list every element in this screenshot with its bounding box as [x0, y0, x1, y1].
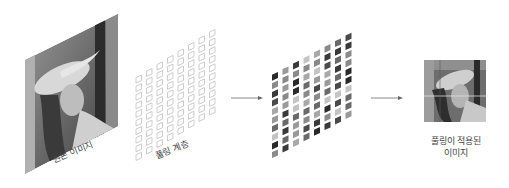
pooled-tile [272, 141, 278, 150]
pooling-cell [157, 88, 163, 96]
pooled-tile [272, 98, 278, 107]
pooling-cell [189, 120, 195, 128]
pooled-tile [293, 121, 299, 130]
pooled-tile [304, 98, 310, 107]
pooling-cell [210, 30, 216, 38]
pooled-tile [335, 47, 341, 56]
pooled-tile [283, 118, 289, 127]
pooled-tile [335, 116, 341, 125]
pooled-tile [314, 84, 320, 93]
result-image [424, 60, 486, 122]
pooling-cell [147, 112, 153, 120]
pooled-tile [304, 55, 310, 64]
pooled-tile [325, 61, 331, 70]
pooling-cell [136, 144, 142, 152]
pooled-tile [304, 115, 310, 124]
pooled-tile [335, 73, 341, 82]
pooled-tile [304, 124, 310, 133]
pooling-cell [136, 127, 142, 135]
pooling-cell [189, 103, 195, 111]
pooled-tile [335, 107, 341, 116]
pooled-tile [293, 112, 299, 121]
pooling-cell [168, 99, 174, 107]
pooled-tile [325, 113, 331, 122]
pooling-cell [157, 96, 163, 104]
pooling-cell [210, 47, 216, 55]
pooling-cell [178, 101, 184, 109]
pooling-cell [210, 81, 216, 89]
pooled-tile [325, 121, 331, 130]
pooled-tile [325, 96, 331, 105]
pooled-tile [272, 124, 278, 133]
pooled-tile [283, 101, 289, 110]
pooling-cell [147, 129, 153, 137]
pooled-tile [272, 132, 278, 141]
pooled-tile [346, 33, 352, 42]
pooling-cell [199, 36, 205, 44]
pooled-tile [346, 59, 352, 68]
pooled-tile [283, 84, 289, 93]
pooling-cell [178, 58, 184, 66]
pooling-cell [136, 92, 142, 100]
pooling-cell [168, 133, 174, 141]
pooling-cell [199, 105, 205, 113]
pooled-tile [314, 67, 320, 76]
pooled-tile [293, 138, 299, 147]
pooling-cell [157, 105, 163, 113]
pooled-tile [272, 106, 278, 115]
pooling-cell [157, 122, 163, 130]
pooled-tile [293, 130, 299, 139]
pooling-cell [189, 68, 195, 76]
pooled-tile [293, 95, 299, 104]
diagram-canvas [0, 0, 509, 188]
pooled-tile [335, 64, 341, 73]
pooled-tile [335, 56, 341, 65]
pooled-tile [304, 81, 310, 90]
pooling-cell [147, 146, 153, 154]
pooled-tile [283, 144, 289, 153]
pooled-tile [283, 92, 289, 101]
pooling-cell [189, 86, 195, 94]
pooled-tiles-grid [272, 33, 352, 158]
pooled-tile [314, 58, 320, 67]
pooling-cell [136, 84, 142, 92]
pooling-cell [210, 55, 216, 63]
pooling-cell [136, 118, 142, 126]
pooling-cell [199, 79, 205, 87]
pooling-cell [210, 64, 216, 72]
pooled-tile [272, 149, 278, 158]
pooled-tile [272, 72, 278, 81]
pooling-cell [199, 53, 205, 61]
pooling-cell [157, 62, 163, 70]
pooling-cell [178, 49, 184, 57]
pooling-cell [147, 103, 153, 111]
pooling-cell [199, 88, 205, 96]
pooling-cell [178, 83, 184, 91]
pooling-cell [189, 94, 195, 102]
pooling-cell [210, 38, 216, 46]
pooling-cell [178, 66, 184, 74]
pooled-tile [272, 89, 278, 98]
pooling-cell [147, 137, 153, 145]
pooled-tile [346, 76, 352, 85]
pooling-cell [168, 81, 174, 89]
pooling-cell [210, 98, 216, 106]
pooling-cell [168, 124, 174, 132]
pooled-tile [335, 81, 341, 90]
pooling-cell [147, 77, 153, 85]
pooled-tile [325, 44, 331, 53]
pooled-tile [314, 93, 320, 102]
pooling-cell [168, 56, 174, 64]
pooled-tile [325, 104, 331, 113]
result-image-label-line2: 이미지 [424, 146, 488, 159]
pooling-cell [199, 62, 205, 70]
pooled-tile [293, 87, 299, 96]
pooled-tile [335, 99, 341, 108]
arrow-right-icon [231, 96, 263, 100]
pooled-tile [304, 133, 310, 142]
pooling-cell [147, 86, 153, 94]
pooled-tile [283, 66, 289, 75]
pooled-tile [293, 69, 299, 78]
pooling-cell [210, 107, 216, 115]
pooled-tile [325, 70, 331, 79]
